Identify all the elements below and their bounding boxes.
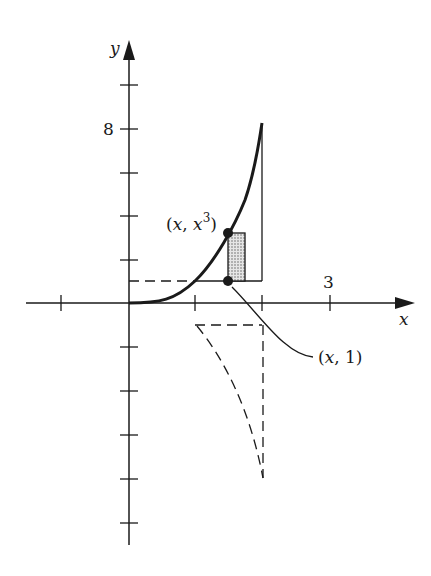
label-comma: ,	[182, 214, 193, 234]
label-close: )	[210, 214, 217, 234]
diagram-canvas: 3 x 8 y (x, x3) (x, 1)	[0, 0, 431, 576]
label-x2: x	[193, 214, 203, 234]
point-label-curve: (x, x3)	[166, 211, 217, 234]
x-axis-label: x	[399, 309, 409, 329]
y-axis-label: y	[109, 38, 120, 58]
label-x: x	[173, 214, 183, 234]
point-on-line	[223, 276, 233, 286]
y-axis-arrow-icon	[123, 40, 135, 60]
y-tick-label: 8	[103, 119, 114, 139]
point-label-line: (x, 1)	[318, 347, 363, 367]
reflected-curve-dashed	[197, 326, 263, 478]
reflected-region	[195, 325, 263, 478]
leader-line	[232, 287, 313, 357]
label-exponent: 3	[203, 211, 211, 225]
label-open: (	[166, 214, 173, 234]
y-axis: 8 y	[103, 38, 138, 545]
x-tick-label: 3	[323, 272, 334, 292]
point-on-curve	[223, 228, 233, 238]
x-axis-arrow-icon	[395, 297, 415, 309]
representative-strip	[228, 233, 245, 281]
